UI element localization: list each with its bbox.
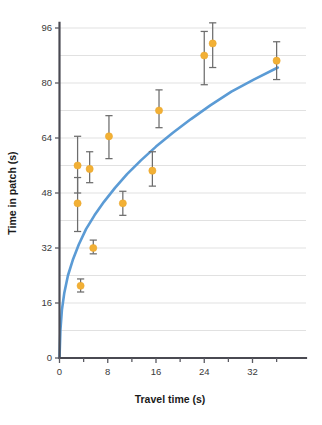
data-point-4: [90, 244, 97, 251]
data-point-6: [119, 200, 126, 207]
chart-figure: 016324864809608162432 Travel time (s) Ti…: [0, 0, 322, 425]
x-tick-label-0: 0: [57, 366, 62, 377]
data-point-9: [201, 52, 208, 59]
data-point-0: [74, 162, 81, 169]
y-axis-title: Time in patch (s): [6, 151, 18, 234]
data-point-1: [74, 200, 81, 207]
y-tick-label-96: 96: [41, 22, 52, 33]
y-tick-label-16: 16: [41, 297, 52, 308]
y-tick-label-48: 48: [41, 187, 52, 198]
y-tick-label-80: 80: [41, 77, 52, 88]
data-point-11: [273, 57, 280, 64]
patch-residence-time-scatter-chart: 016324864809608162432 Travel time (s) Ti…: [0, 0, 322, 425]
x-tick-label-32: 32: [247, 366, 258, 377]
x-tick-label-16: 16: [151, 366, 162, 377]
x-tick-label-24: 24: [199, 366, 210, 377]
data-point-3: [86, 165, 93, 172]
data-point-5: [105, 133, 112, 140]
data-point-2: [77, 282, 84, 289]
y-tick-label-0: 0: [47, 352, 52, 363]
data-point-8: [155, 107, 162, 114]
data-point-10: [209, 40, 216, 47]
x-axis-title: Travel time (s): [135, 393, 206, 405]
data-point-7: [149, 167, 156, 174]
x-tick-label-8: 8: [105, 366, 110, 377]
y-tick-label-32: 32: [41, 242, 52, 253]
y-tick-label-64: 64: [41, 132, 52, 143]
